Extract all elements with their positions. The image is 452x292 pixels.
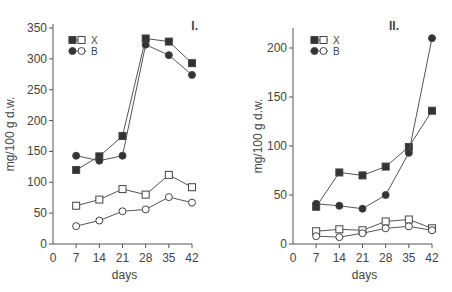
data-point-square	[165, 38, 172, 45]
x-tick-label: 0	[290, 251, 297, 265]
legend-open-square-icon	[320, 37, 327, 44]
x-tick-label: 35	[402, 251, 416, 265]
data-point-square	[119, 186, 126, 193]
chart-panel-i: 050100150200250300350071421283542daysmg/…	[3, 19, 199, 282]
legend-label: X	[333, 35, 340, 46]
data-point-square	[189, 184, 196, 191]
data-point-square	[382, 218, 389, 225]
series-line	[76, 45, 192, 161]
data-point-circle	[119, 208, 126, 215]
data-point-circle	[142, 41, 149, 48]
series-line	[316, 38, 432, 209]
x-axis-title: days	[112, 268, 137, 282]
data-point-square	[73, 202, 80, 209]
panel-label: I.	[191, 19, 198, 33]
chart-panel-ii: 050100150200071421283542daysmg/100 g d.w…	[251, 19, 439, 282]
data-point-circle	[189, 71, 196, 78]
data-point-circle	[189, 199, 196, 206]
y-tick-label: 150	[27, 144, 47, 158]
data-point-circle	[313, 233, 320, 240]
series-line	[316, 226, 432, 237]
y-tick-label: 200	[267, 41, 287, 55]
x-axis-title: days	[352, 268, 377, 282]
y-tick-label: 350	[27, 21, 47, 35]
x-tick-label: 14	[93, 251, 107, 265]
x-tick-label: 42	[425, 251, 439, 265]
y-tick-label: 100	[267, 139, 287, 153]
data-point-circle	[336, 202, 343, 209]
data-point-circle	[165, 194, 172, 201]
data-point-circle	[336, 234, 343, 241]
y-axis-title: mg/100 g d.w.	[3, 97, 17, 172]
data-point-square	[165, 171, 172, 178]
data-point-circle	[405, 223, 412, 230]
y-tick-label: 200	[27, 114, 47, 128]
y-tick-label: 50	[274, 188, 288, 202]
x-tick-label: 0	[50, 251, 57, 265]
data-point-circle	[359, 230, 366, 237]
data-point-square	[73, 166, 80, 173]
data-point-circle	[73, 152, 80, 159]
panel-label: II.	[389, 19, 399, 33]
x-tick-label: 7	[313, 251, 320, 265]
series-line	[316, 220, 432, 232]
data-point-square	[336, 169, 343, 176]
y-tick-label: 0	[280, 237, 287, 251]
data-point-circle	[382, 225, 389, 232]
y-tick-label: 300	[27, 52, 47, 66]
data-point-circle	[429, 227, 436, 234]
y-tick-label: 50	[34, 206, 48, 220]
series-line	[76, 38, 192, 169]
legend-filled-circle-icon	[69, 48, 76, 55]
data-point-square	[142, 191, 149, 198]
y-tick-label: 100	[27, 175, 47, 189]
x-tick-label: 7	[73, 251, 80, 265]
data-point-circle	[119, 152, 126, 159]
legend-open-circle-icon	[78, 48, 85, 55]
legend-filled-circle-icon	[311, 48, 318, 55]
x-tick-label: 42	[185, 251, 199, 265]
x-tick-label: 35	[162, 251, 176, 265]
data-point-circle	[405, 149, 412, 156]
data-point-circle	[96, 217, 103, 224]
x-tick-label: 28	[139, 251, 153, 265]
data-point-square	[189, 60, 196, 67]
data-point-circle	[96, 157, 103, 164]
legend-filled-square-icon	[311, 37, 318, 44]
x-tick-label: 21	[356, 251, 370, 265]
y-axis-title: mg/100 g d.w.	[251, 99, 265, 174]
legend-open-square-icon	[78, 37, 85, 44]
legend-label: B	[333, 46, 340, 57]
x-tick-label: 14	[333, 251, 347, 265]
legend-label: X	[91, 35, 98, 46]
data-point-square	[96, 196, 103, 203]
data-point-circle	[313, 200, 320, 207]
legend-open-circle-icon	[320, 48, 327, 55]
y-tick-label: 250	[27, 83, 47, 97]
data-point-circle	[73, 223, 80, 230]
data-point-square	[359, 172, 366, 179]
x-tick-label: 28	[379, 251, 393, 265]
data-point-circle	[429, 35, 436, 42]
data-point-circle	[165, 52, 172, 59]
y-tick-label: 150	[267, 90, 287, 104]
data-point-square	[405, 216, 412, 223]
data-point-square	[119, 133, 126, 140]
data-point-square	[336, 226, 343, 233]
legend-filled-square-icon	[69, 37, 76, 44]
chart-figure: 050100150200250300350071421283542daysmg/…	[0, 0, 452, 292]
data-point-square	[429, 107, 436, 114]
data-point-circle	[142, 206, 149, 213]
data-point-square	[382, 163, 389, 170]
x-tick-label: 21	[116, 251, 130, 265]
data-point-circle	[382, 192, 389, 199]
y-tick-label: 0	[40, 237, 47, 251]
data-point-circle	[359, 205, 366, 212]
series-line	[76, 175, 192, 206]
legend-label: B	[91, 46, 98, 57]
